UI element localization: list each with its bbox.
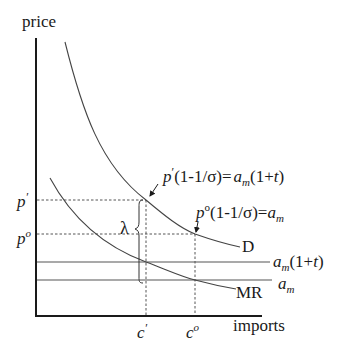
eq-tariff-label: p′(1-1/σ)=am(1+t) (162, 165, 284, 188)
eq-free-label: po(1-1/σ)=am (195, 201, 284, 224)
arrow-eq-free (196, 222, 198, 232)
cost-label: am (278, 274, 295, 295)
mr-label: MR (236, 283, 263, 302)
c-prime-label: c′ (137, 321, 148, 342)
lambda-label: λ (120, 218, 129, 238)
y-axis-label: price (22, 12, 56, 31)
p-zero-label: po (16, 227, 32, 248)
demand-label: D (242, 237, 254, 256)
trade-diagram: price imports D MR am(1+t) am p′ po c′ c… (0, 0, 342, 357)
p-prime-label: p′ (16, 190, 29, 211)
guide-lines (37, 200, 195, 315)
x-axis-label: imports (233, 316, 285, 335)
lambda-brace (135, 200, 143, 283)
arrow-eq-tariff (150, 184, 158, 196)
tariff-cost-label: am(1+t) (273, 252, 324, 273)
c-zero-label: co (186, 321, 200, 342)
